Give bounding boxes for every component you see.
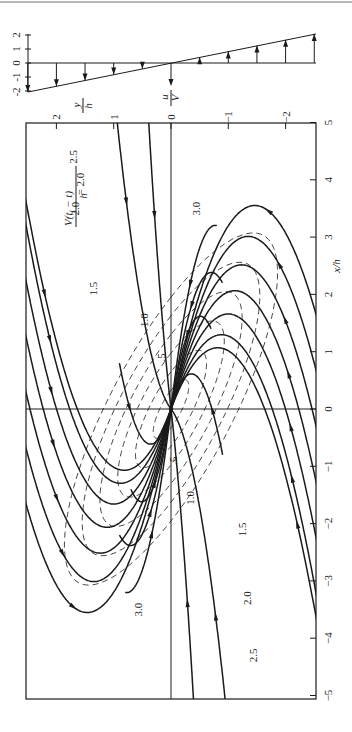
contour-label: 3.0 [190, 201, 202, 215]
y-tick-label: 2 [50, 114, 62, 120]
streamline [16, 145, 171, 470]
y-tick-labels: 210−1−2 [50, 111, 291, 123]
x-tick-labels: 543210−1−2−3−4−5 [322, 119, 334, 701]
arrowhead-icon [59, 549, 65, 557]
arrowhead-icon [42, 289, 46, 298]
y-tick-label: 1 [108, 114, 120, 120]
contour-label: 1.5 [87, 281, 99, 295]
x-tick-label: −5 [322, 689, 334, 701]
x-tick-label: 3 [322, 234, 334, 240]
streamline [171, 409, 228, 730]
x-tick-label: 1 [322, 349, 334, 355]
arrowhead-icon [211, 406, 216, 415]
arrowhead-icon [126, 403, 131, 412]
y-label: y [70, 102, 82, 108]
arrowhead-icon [283, 316, 288, 325]
arrowhead-icon [53, 494, 58, 503]
u-over-V-label: u V [158, 90, 181, 106]
contour-label: 2.5 [247, 648, 259, 662]
arrowhead-icon [189, 279, 193, 288]
contour-label: 1.5 [236, 522, 248, 536]
contour-label: .5 [155, 353, 167, 362]
arrowhead-icon [287, 370, 292, 379]
arrowhead-icon [48, 386, 52, 395]
x-tick-label: −1 [322, 460, 334, 472]
origin-node [169, 407, 173, 411]
shear-flow-trajectory-diagram: -2 -1 0 1 2 u V y h 210−1−2 543210−1−2−3… [0, 0, 352, 732]
streamline [171, 409, 194, 707]
arrowhead-icon [277, 261, 283, 269]
arrowhead-icon [47, 335, 51, 344]
arrowhead-icon [50, 439, 55, 448]
y-over-h-label: y h [70, 98, 94, 113]
arrowhead-icon [140, 62, 145, 69]
streamline [171, 265, 320, 444]
x-tick-label: −2 [322, 518, 334, 530]
profile-tick-label: -2 [10, 87, 22, 96]
arrowhead-icon [291, 474, 295, 483]
x-tick-label: 4 [322, 177, 334, 183]
arrowhead-icon [147, 508, 151, 517]
profile-tick-label: 1 [10, 46, 22, 52]
contour-labels: .51.01.52.02.53.0.51.01.52.02.53.0 [67, 150, 259, 663]
x-tick-label: 0 [322, 406, 334, 412]
contour-label: .5 [167, 456, 179, 465]
contour-label: 1.0 [138, 313, 150, 327]
velocity-profile: -2 -1 0 1 2 u V [10, 32, 317, 106]
profile-tick-label: -1 [10, 72, 22, 81]
profile-scale-labels: -2 -1 0 1 2 [10, 32, 22, 96]
contour-label: 1.0 [184, 490, 196, 504]
y-tick-label: 0 [165, 114, 177, 120]
profile-tick-label: 0 [10, 60, 22, 66]
streamline [22, 375, 171, 554]
arrowhead-icon [111, 68, 116, 75]
contour-formula: V(tf − t) h = 2.0 [62, 166, 89, 227]
streamline [171, 374, 223, 455]
arrowhead-icon [169, 79, 174, 86]
streamline [171, 348, 326, 673]
arrowhead-icon [290, 423, 294, 432]
y-tick-label: −2 [280, 111, 292, 123]
h-label: h [82, 103, 94, 109]
arrowhead-icon [296, 520, 300, 529]
x-tick-label: −3 [322, 575, 334, 587]
arrowhead-icon [83, 73, 88, 80]
arrowhead-icon [54, 79, 59, 86]
x-tick-label: 5 [322, 119, 334, 125]
profile-tick-label: 2 [10, 32, 22, 38]
arrowhead-icon [149, 530, 153, 539]
formula-value: = 2.0 [74, 172, 86, 195]
contour-label: 2.5 [67, 150, 79, 164]
x-tick-label: −4 [322, 632, 334, 644]
contour-label: 2.0 [241, 591, 253, 605]
y-tick-label: −1 [222, 111, 234, 123]
contour-label: 3.0 [132, 602, 144, 616]
x-axis-label: x/h [330, 259, 342, 274]
arrowhead-icon [190, 301, 194, 310]
x-tick-label: 2 [322, 292, 334, 298]
trajectory-plot: y h 210−1−2 543210−1−2−3−4−5 x/h .51.01.… [16, 88, 342, 730]
streamline [148, 111, 171, 409]
